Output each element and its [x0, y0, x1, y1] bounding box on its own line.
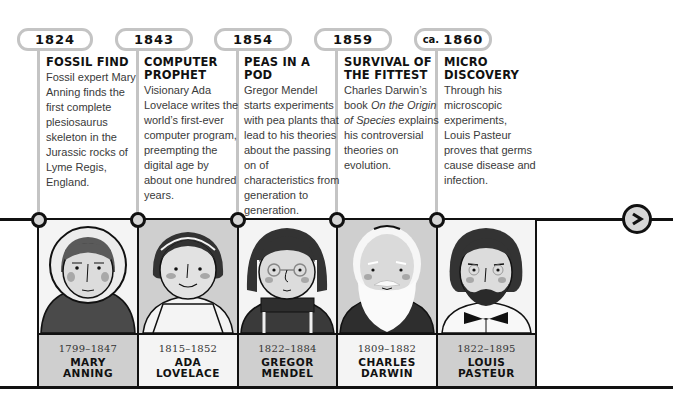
timeline-node-1843: [130, 212, 146, 228]
person-card-gregor-mendel: 1822–1884 Gregor Mendel: [237, 220, 336, 388]
person-card-ada-lovelace: 1815–1852 Ada Lovelace: [137, 220, 237, 388]
event-title: Peas in a Pod: [244, 56, 340, 82]
next-button[interactable]: [622, 204, 652, 234]
person-card-louis-pasteur: 1822–1895 Louis Pasteur: [436, 220, 535, 388]
name-line: Darwin: [358, 368, 416, 379]
life-dates: 1809–1882: [358, 343, 417, 354]
person-label: 1822–1895 Louis Pasteur: [438, 333, 535, 388]
event-description: Gregor Mendel starts experiments with pe…: [244, 83, 340, 218]
year-label: 1859: [333, 32, 373, 47]
event-title: Fossil Find: [46, 56, 141, 69]
portrait-charles-darwin: [338, 220, 436, 333]
year-badge-1824: 1824: [17, 28, 93, 51]
portrait-ada-lovelace: [139, 220, 237, 333]
portrait-gregor-mendel: [239, 220, 336, 333]
person-name: Gregor Mendel: [261, 357, 314, 379]
event-fossil-find: Fossil Find Fossil expert Mary Anning fi…: [46, 56, 141, 190]
name-line: Lovelace: [156, 368, 220, 379]
life-dates: 1822–1884: [258, 343, 317, 354]
chevron-right-icon: [630, 212, 644, 226]
event-survival-of-the-fittest: Survival of the Fittest Charles Darwin’s…: [344, 56, 439, 173]
title-line: Fossil Find: [46, 56, 141, 69]
year-badge-1854: 1854: [214, 28, 292, 51]
life-dates: 1799–1847: [59, 343, 118, 354]
portrait-louis-pasteur: [438, 220, 535, 333]
timeline-node-1860: [429, 212, 445, 228]
title-line: Peas in a Pod: [244, 56, 340, 82]
year-badge-1843: 1843: [115, 28, 193, 51]
person-label: 1799–1847 Mary Anning: [39, 333, 137, 388]
name-line: Anning: [63, 368, 113, 379]
panel-divider: [535, 220, 537, 388]
timeline-node-1854: [230, 212, 246, 228]
year-label: 1843: [134, 32, 174, 47]
year-label: 1854: [233, 32, 273, 47]
event-peas-in-a-pod: Peas in a Pod Gregor Mendel starts exper…: [244, 56, 340, 218]
person-name: Charles Darwin: [358, 357, 416, 379]
event-description: Through his microscopic experiments, Lou…: [444, 83, 536, 188]
person-name: Mary Anning: [63, 357, 113, 379]
person-name: Louis Pasteur: [458, 357, 515, 379]
person-name: Ada Lovelace: [156, 357, 220, 379]
person-card-charles-darwin: 1809–1882 Charles Darwin: [336, 220, 436, 388]
event-computer-prophet: Computer Prophet Visionary Ada Lovelace …: [144, 56, 239, 203]
year-badge-1859: 1859: [314, 28, 392, 51]
name-line: Mendel: [261, 368, 314, 379]
title-line: the Fittest: [344, 69, 439, 82]
year-badge-1860: ca. 1860: [414, 28, 492, 51]
event-description: Fossil expert Mary Anning finds the firs…: [46, 70, 141, 190]
person-label: 1815–1852 Ada Lovelace: [139, 333, 237, 388]
portrait-mary-anning: [39, 220, 137, 333]
timeline-node-1824: [31, 212, 47, 228]
event-title: Micro Discovery: [444, 56, 536, 82]
life-dates: 1815–1852: [159, 343, 218, 354]
name-line: Pasteur: [458, 368, 515, 379]
person-label: 1809–1882 Charles Darwin: [338, 333, 436, 388]
life-dates: 1822–1895: [457, 343, 516, 354]
event-title: Survival of the Fittest: [344, 56, 439, 82]
event-description: Visionary Ada Lovelace writes the world’…: [144, 83, 239, 203]
person-label: 1822–1884 Gregor Mendel: [239, 333, 336, 388]
connector-line: [37, 48, 40, 218]
year-prefix: ca.: [423, 34, 439, 45]
event-title: Computer Prophet: [144, 56, 239, 82]
event-description: Charles Darwin’s book On the Origin of S…: [344, 83, 439, 173]
event-micro-discovery: Micro Discovery Through his microscopic …: [444, 56, 536, 188]
title-line: Prophet: [144, 69, 239, 82]
timeline-node-1859: [329, 212, 345, 228]
bottom-rule: [0, 386, 673, 389]
person-card-mary-anning: 1799–1847 Mary Anning: [37, 220, 137, 388]
year-label: 1824: [35, 32, 75, 47]
year-label: 1860: [443, 32, 483, 47]
title-line: Discovery: [444, 69, 536, 82]
